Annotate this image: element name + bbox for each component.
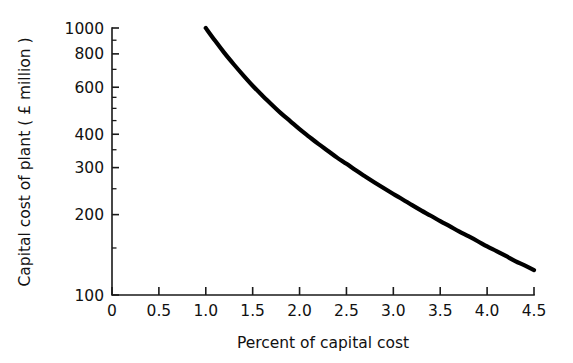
x-tick-label: 3.0 [381, 302, 406, 320]
y-axis-tick-labels: 1002003004006008001000 [65, 20, 104, 305]
x-axis-tick-labels: 00.51.01.52.02.53.03.54.04.5 [107, 302, 546, 320]
data-curve-capital-cost [206, 28, 534, 270]
x-axis-major-ticks [112, 287, 534, 295]
axis-spines [112, 28, 534, 295]
y-tick-label: 100 [74, 287, 104, 305]
chart-canvas: 1002003004006008001000 00.51.01.52.02.53… [0, 0, 573, 363]
y-tick-label: 600 [74, 79, 104, 97]
y-tick-label: 800 [74, 45, 104, 63]
y-axis-major-ticks [112, 28, 119, 295]
x-tick-label: 2.0 [287, 302, 312, 320]
y-axis-title: Capital cost of plant ( £ million ) [16, 37, 34, 286]
x-axis-title: Percent of capital cost [237, 334, 409, 352]
x-tick-label: 3.5 [428, 302, 453, 320]
x-tick-label: 2.5 [334, 302, 359, 320]
x-tick-label: 0.5 [147, 302, 172, 320]
y-tick-label: 300 [74, 159, 104, 177]
y-tick-label: 400 [74, 126, 104, 144]
x-tick-label: 1.0 [193, 302, 218, 320]
x-tick-label: 1.5 [240, 302, 265, 320]
chart-figure: 1002003004006008001000 00.51.01.52.02.53… [0, 0, 573, 363]
y-tick-label: 200 [74, 206, 104, 224]
x-tick-label: 4.0 [475, 302, 500, 320]
y-tick-label: 1000 [65, 20, 104, 38]
x-tick-label: 0 [107, 302, 117, 320]
x-tick-label: 4.5 [522, 302, 547, 320]
